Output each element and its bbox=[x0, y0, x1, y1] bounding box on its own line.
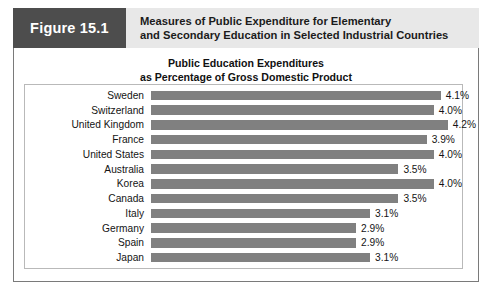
bar-row: Spain2.9% bbox=[25, 236, 462, 249]
bar bbox=[151, 164, 398, 174]
bar-value-label: 4.0% bbox=[434, 105, 462, 116]
bar bbox=[151, 120, 448, 130]
bar-row: Canada3.5% bbox=[25, 192, 462, 205]
bar-row: Japan3.1% bbox=[25, 251, 462, 264]
bar bbox=[151, 253, 370, 263]
bar bbox=[151, 179, 434, 189]
bar-track: 2.9% bbox=[151, 223, 462, 234]
bar-value-label: 4.0% bbox=[434, 178, 462, 189]
bar-row: United States4.0% bbox=[25, 148, 462, 161]
bar-track: 3.9% bbox=[151, 134, 462, 145]
bar-category-label: United States bbox=[25, 149, 151, 160]
bar-track: 3.5% bbox=[151, 164, 462, 175]
bar-track: 3.1% bbox=[151, 252, 462, 263]
bar bbox=[151, 194, 398, 204]
bar bbox=[151, 209, 370, 219]
figure-header-title: Measures of Public Expenditure for Eleme… bbox=[126, 8, 479, 48]
bar-value-label: 3.1% bbox=[370, 208, 398, 219]
bar-row: Germany2.9% bbox=[25, 221, 462, 234]
bar-track: 3.1% bbox=[151, 208, 462, 219]
figure-header-title-line-1: Measures of Public Expenditure for Eleme… bbox=[140, 14, 479, 29]
bar-value-label: 2.9% bbox=[356, 223, 384, 234]
bar-category-label: Korea bbox=[25, 178, 151, 189]
bar-category-label: Canada bbox=[25, 193, 151, 204]
bar-category-label: Spain bbox=[25, 237, 151, 248]
bar bbox=[151, 91, 441, 101]
bar-value-label: 3.5% bbox=[398, 193, 426, 204]
bar-track: 4.0% bbox=[151, 178, 462, 189]
bar-value-label: 3.9% bbox=[427, 134, 455, 145]
bar-row: Sweden4.1% bbox=[25, 89, 462, 102]
figure-number-tag: Figure 15.1 bbox=[13, 8, 126, 48]
bar-track: 4.0% bbox=[151, 105, 462, 116]
chart-title: Public Education Expenditures as Percent… bbox=[14, 57, 478, 84]
bar-row: United Kingdom4.2% bbox=[25, 118, 462, 131]
bar-track: 4.1% bbox=[151, 90, 462, 101]
bar-row: Australia3.5% bbox=[25, 162, 462, 175]
bar-rows-container: Sweden4.1%Switzerland4.0%United Kingdom4… bbox=[25, 85, 462, 268]
bar bbox=[151, 105, 434, 115]
bar-category-label: Germany bbox=[25, 223, 151, 234]
bar bbox=[151, 238, 356, 248]
bar-category-label: France bbox=[25, 134, 151, 145]
bar-category-label: Australia bbox=[25, 164, 151, 175]
bar-row: Italy3.1% bbox=[25, 207, 462, 220]
figure-header-band: Figure 15.1 Measures of Public Expenditu… bbox=[13, 8, 479, 48]
bar-value-label: 2.9% bbox=[356, 237, 384, 248]
bar-track: 3.5% bbox=[151, 193, 462, 204]
figure-header-title-line-2: and Secondary Education in Selected Indu… bbox=[140, 28, 479, 43]
bar-value-label: 4.2% bbox=[448, 119, 476, 130]
chart-plot-area: Sweden4.1%Switzerland4.0%United Kingdom4… bbox=[24, 84, 463, 269]
bar-track: 2.9% bbox=[151, 237, 462, 248]
figure-container: Figure 15.1 Measures of Public Expenditu… bbox=[0, 0, 492, 292]
bar bbox=[151, 135, 427, 145]
figure-body-frame: Public Education Expenditures as Percent… bbox=[13, 48, 479, 282]
bar-category-label: Italy bbox=[25, 208, 151, 219]
bar-category-label: Sweden bbox=[25, 90, 151, 101]
bar bbox=[151, 150, 434, 160]
bar-track: 4.2% bbox=[151, 119, 462, 130]
chart-title-line-2: as Percentage of Gross Domestic Product bbox=[14, 71, 478, 85]
bar-value-label: 3.1% bbox=[370, 252, 398, 263]
bar-category-label: Japan bbox=[25, 252, 151, 263]
chart-title-line-1: Public Education Expenditures bbox=[14, 57, 478, 71]
bar-category-label: Switzerland bbox=[25, 105, 151, 116]
bar bbox=[151, 223, 356, 233]
bar-row: Switzerland4.0% bbox=[25, 103, 462, 116]
bar-row: France3.9% bbox=[25, 133, 462, 146]
bar-value-label: 3.5% bbox=[398, 164, 426, 175]
bar-row: Korea4.0% bbox=[25, 177, 462, 190]
bar-track: 4.0% bbox=[151, 149, 462, 160]
bar-category-label: United Kingdom bbox=[25, 119, 151, 130]
bar-value-label: 4.1% bbox=[441, 90, 469, 101]
bar-value-label: 4.0% bbox=[434, 149, 462, 160]
